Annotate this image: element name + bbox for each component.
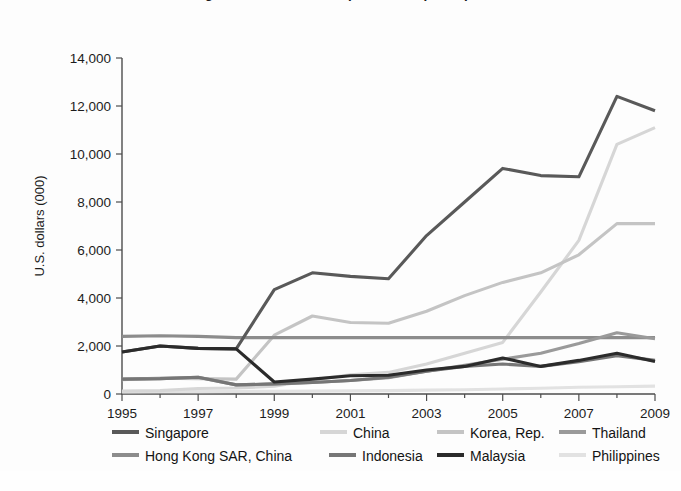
y-tick-label: 12,000 (70, 99, 111, 114)
legend-item-indonesia[interactable]: Indonesia (329, 444, 423, 466)
legend-swatch-icon (112, 453, 139, 458)
legend-label: Philippines (592, 445, 660, 467)
legend-row-1: SingaporeChinaKorea, Rep.Thailand (0, 421, 681, 445)
legend-label: Malaysia (470, 445, 525, 467)
legend-label: Korea, Rep. (470, 422, 545, 444)
plot-area: 02,0004,0006,0008,00010,00012,00014,0001… (0, 0, 681, 420)
series-group (122, 96, 655, 391)
y-axis-label: U.S. dollars (000) (32, 175, 47, 276)
legend-label: Hong Kong SAR, China (145, 445, 292, 467)
legend-swatch-icon (112, 430, 139, 435)
legend-item-hong-kong-sar-china[interactable]: Hong Kong SAR, China (112, 444, 292, 466)
figure-container: Figure: Stock market capitalization per … (0, 0, 681, 491)
legend-item-malaysia[interactable]: Malaysia (437, 444, 525, 466)
legend-label: Singapore (145, 422, 209, 444)
series-line-hong-kong-sar-china (122, 336, 655, 338)
y-tick-label: 10,000 (70, 147, 111, 162)
y-tick-label: 0 (103, 387, 111, 402)
legend-row-2: Hong Kong SAR, ChinaIndonesiaMalaysiaPhi… (0, 444, 681, 468)
figure-bottom-margin (0, 471, 681, 491)
legend-item-china[interactable]: China (320, 421, 390, 443)
legend-swatch-icon (437, 430, 464, 435)
legend-label: China (353, 422, 390, 444)
x-tick-label: 2009 (640, 406, 670, 420)
legend-label: Indonesia (362, 445, 423, 467)
x-tick-label: 2007 (564, 406, 594, 420)
x-tick-label: 1999 (259, 406, 289, 420)
x-tick-label: 2005 (488, 406, 518, 420)
series-line-singapore (122, 96, 655, 352)
legend-item-thailand[interactable]: Thailand (559, 421, 646, 443)
y-tick-label: 2,000 (77, 339, 111, 354)
y-tick-label: 8,000 (77, 195, 111, 210)
legend-item-korea-rep[interactable]: Korea, Rep. (437, 421, 545, 443)
x-tick-label: 2001 (335, 406, 365, 420)
y-tick-label: 14,000 (70, 51, 111, 66)
legend-label: Thailand (592, 422, 646, 444)
x-tick-label: 1995 (107, 406, 137, 420)
legend-item-philippines[interactable]: Philippines (559, 444, 660, 466)
y-tick-label: 4,000 (77, 291, 111, 306)
line-chart: 02,0004,0006,0008,00010,00012,00014,0001… (0, 0, 681, 420)
legend-swatch-icon (559, 453, 586, 458)
axis-group: 02,0004,0006,0008,00010,00012,00014,0001… (32, 51, 670, 420)
legend-swatch-icon (559, 430, 586, 435)
legend-swatch-icon (437, 453, 464, 458)
series-line-china (122, 128, 655, 392)
legend-item-singapore[interactable]: Singapore (112, 421, 209, 443)
legend-swatch-icon (320, 430, 347, 435)
x-tick-label: 1997 (183, 406, 213, 420)
y-tick-label: 6,000 (77, 243, 111, 258)
x-tick-label: 2003 (412, 406, 442, 420)
chart-legend: SingaporeChinaKorea, Rep.Thailand Hong K… (0, 419, 681, 471)
legend-swatch-icon (329, 453, 356, 458)
